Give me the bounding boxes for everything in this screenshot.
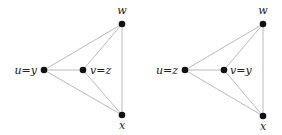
label-w: w [258, 4, 268, 17]
graph-right: w u=z v=y x [156, 4, 268, 133]
label-x: x [119, 119, 126, 132]
label-v: v=z [90, 64, 111, 77]
label-w: w [117, 4, 127, 17]
node-u [182, 67, 189, 74]
label-v: v=y [230, 64, 252, 77]
graph-left: w u=y v=z x [14, 4, 127, 132]
node-u [41, 67, 48, 74]
node-v [221, 67, 228, 74]
diagram-canvas: w u=y v=z x w u=z v=y x [0, 0, 282, 135]
node-x [260, 113, 267, 120]
node-w [119, 21, 126, 28]
label-u: u=y [14, 64, 37, 77]
label-x: x [260, 120, 267, 133]
node-x [119, 112, 126, 119]
label-u: u=z [156, 64, 178, 77]
node-w [260, 21, 267, 28]
node-v [80, 67, 87, 74]
